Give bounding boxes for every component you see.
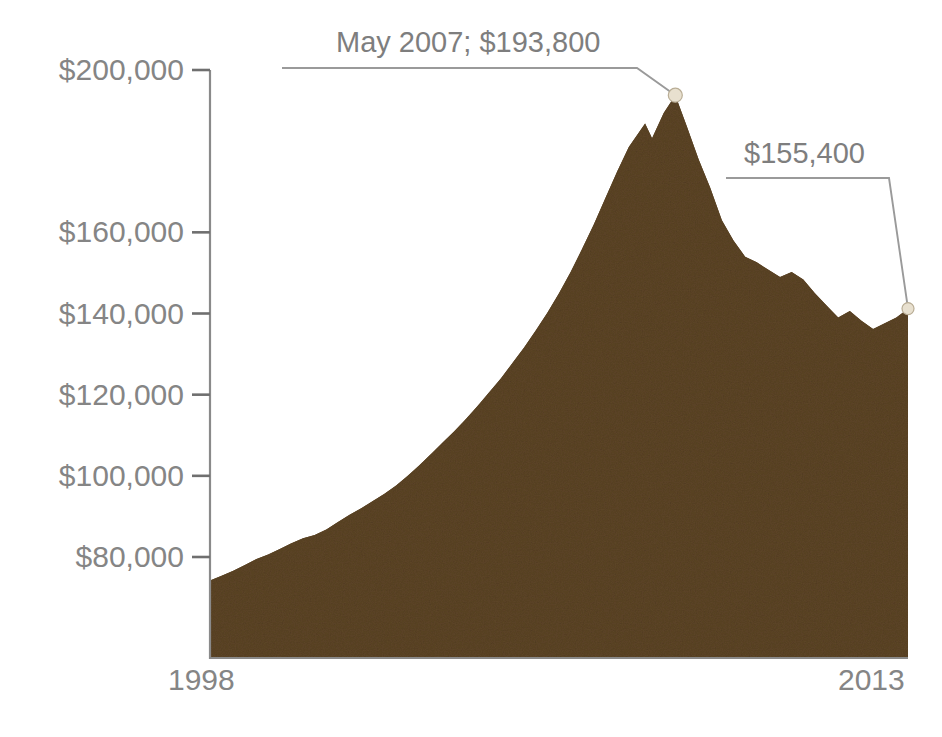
annotation-label-peak: May 2007; $193,800 xyxy=(336,26,600,58)
y-axis-label-80000: $80,000 xyxy=(76,540,184,573)
annotation-peak: May 2007; $193,800 xyxy=(282,26,682,102)
peak-marker-dot xyxy=(668,88,682,102)
y-axis-labels: $200,000$160,000$140,000$120,000$100,000… xyxy=(59,53,184,573)
area-texture xyxy=(0,0,942,737)
y-axis-label-140000: $140,000 xyxy=(59,297,184,330)
latest-marker-dot xyxy=(902,303,914,315)
y-axis-label-160000: $160,000 xyxy=(59,215,184,248)
chart-container: $200,000$160,000$140,000$120,000$100,000… xyxy=(0,0,942,737)
x-axis-label-end: 2013 xyxy=(838,663,905,696)
y-tick-marks xyxy=(192,70,210,557)
y-axis-label-200000: $200,000 xyxy=(59,53,184,86)
y-axis-label-100000: $100,000 xyxy=(59,459,184,492)
x-axis-label-start: 1998 xyxy=(168,663,235,696)
y-axis-label-120000: $120,000 xyxy=(59,378,184,411)
annotation-label-latest: $155,400 xyxy=(744,137,865,169)
series-area-group xyxy=(0,0,942,737)
area-chart: $200,000$160,000$140,000$120,000$100,000… xyxy=(0,0,942,737)
leader-line-peak xyxy=(282,68,675,95)
